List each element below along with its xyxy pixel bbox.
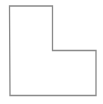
l-shape-outline bbox=[10, 6, 97, 96]
l-shape-diagram bbox=[0, 0, 103, 104]
diagram-canvas bbox=[0, 0, 103, 104]
